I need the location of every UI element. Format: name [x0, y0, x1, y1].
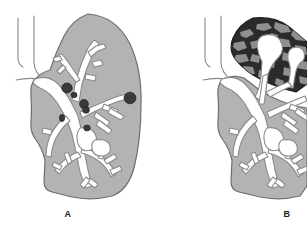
nodule [71, 92, 77, 98]
lung-comparison-figure [0, 0, 307, 240]
panel-label-b: B [277, 209, 297, 219]
nodule [124, 92, 136, 104]
nodule [84, 125, 90, 131]
nodule [62, 83, 72, 93]
panel-label-a: A [58, 209, 78, 219]
nodule [59, 114, 64, 121]
nodule [83, 107, 90, 113]
